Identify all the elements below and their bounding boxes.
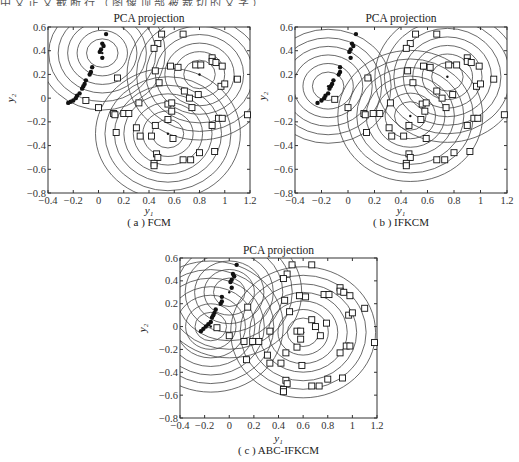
svg-text:−0.6: −0.6: [159, 390, 178, 401]
figure-caption: ( a ) FCM: [48, 216, 250, 228]
x-axis-label: y₁: [48, 204, 250, 216]
svg-text:1: 1: [350, 420, 355, 431]
svg-text:0: 0: [41, 93, 46, 104]
cluster-center-marker: [446, 76, 448, 78]
svg-text:0.2: 0.2: [247, 420, 260, 431]
svg-text:0.6: 0.6: [165, 253, 178, 264]
chart-panel-ifkcm: PCA projection −0.4−0.200.20.40.60.811.2…: [260, 0, 519, 232]
svg-text:0.4: 0.4: [272, 420, 286, 431]
svg-text:1.2: 1.2: [370, 420, 383, 431]
svg-text:−0.8: −0.8: [159, 413, 178, 424]
svg-text:0.6: 0.6: [33, 22, 46, 33]
svg-text:−0.4: −0.4: [274, 140, 294, 151]
cluster-center-marker: [228, 291, 230, 293]
series-squares: [214, 262, 378, 395]
chart-panel-fcm: PCA projection −0.4−0.200.20.40.60.811.2…: [0, 0, 260, 232]
plot-area: −0.4−0.200.20.40.60.811.20.60.40.20−0.2−…: [0, 0, 260, 232]
svg-text:0.4: 0.4: [165, 275, 179, 286]
svg-text:0.6: 0.6: [297, 420, 310, 431]
svg-text:0.2: 0.2: [165, 298, 178, 309]
plot-area: −0.4−0.200.20.40.60.811.20.60.40.20−0.2−…: [260, 0, 519, 232]
svg-text:−0.4: −0.4: [27, 140, 47, 151]
svg-text:−0.2: −0.2: [159, 344, 178, 355]
plot-area: −0.4−0.200.20.40.60.811.20.60.40.20−0.2−…: [130, 232, 390, 462]
svg-text:−0.6: −0.6: [274, 164, 293, 175]
svg-text:0.6: 0.6: [280, 22, 293, 33]
cluster-center-marker: [167, 133, 169, 135]
contour-lines: [265, 11, 519, 181]
y-axis-label: y₂: [256, 92, 268, 101]
figure-caption: ( b ) IFKCM: [295, 216, 507, 228]
x-axis-label: y₁: [180, 432, 377, 444]
x-axis-label: y₁: [295, 204, 507, 216]
cluster-center-marker: [198, 73, 200, 75]
svg-text:−0.8: −0.8: [274, 188, 293, 199]
y-axis-label: y₂: [136, 324, 148, 333]
svg-text:−0.4: −0.4: [159, 367, 179, 378]
y-axis-label: y₂: [4, 94, 16, 103]
svg-text:−0.2: −0.2: [274, 116, 293, 127]
chart-panel-abc-ifkcm: PCA projection −0.4−0.200.20.40.60.811.2…: [130, 232, 390, 462]
svg-text:0.4: 0.4: [33, 45, 47, 56]
svg-text:0: 0: [173, 321, 178, 332]
svg-text:0.2: 0.2: [33, 69, 46, 80]
axis-ticks: −0.4−0.200.20.40.60.811.20.60.40.20−0.2−…: [274, 22, 514, 207]
svg-text:0.2: 0.2: [280, 69, 293, 80]
svg-text:−0.2: −0.2: [195, 420, 214, 431]
cluster-center-marker: [409, 115, 411, 117]
svg-text:0: 0: [288, 93, 293, 104]
svg-text:−0.8: −0.8: [27, 188, 46, 199]
svg-text:−0.6: −0.6: [27, 164, 46, 175]
svg-text:0.8: 0.8: [321, 420, 334, 431]
figure-caption: ( c ) ABC-IFKCM: [180, 444, 377, 456]
svg-text:−0.2: −0.2: [27, 116, 46, 127]
svg-text:0: 0: [227, 420, 232, 431]
svg-text:0.4: 0.4: [280, 45, 294, 56]
